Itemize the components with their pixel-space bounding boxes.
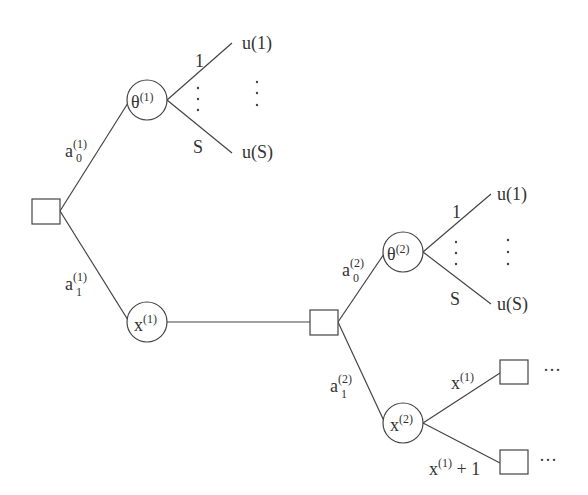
edge-label-x2-top: x(1) <box>451 370 474 393</box>
edge-label-theta2-bottom: S <box>450 289 460 309</box>
edge-label-a1-1-sub: 1 <box>76 285 82 299</box>
theta1-outcome-ellipsis <box>256 81 258 106</box>
outcome-theta2-uS: u(S) <box>497 294 528 315</box>
theta1-branch-ellipsis <box>197 87 199 111</box>
edge-a1-1 <box>60 211 128 320</box>
leaf-decision-node-a <box>500 360 528 384</box>
root-decision-node <box>32 199 60 224</box>
edge-label-x2-bottom: x(1) + 1 <box>429 456 480 479</box>
outcome-theta2-u1: u(1) <box>497 184 527 205</box>
edge-label-theta1-bottom: S <box>193 137 203 157</box>
leaf-a-continuation: ··· <box>543 360 561 380</box>
theta2-branch-ellipsis <box>455 241 457 265</box>
leaf-b-continuation: ··· <box>539 450 557 470</box>
edge-label-a0-1-sub: 0 <box>76 151 82 165</box>
leaf-decision-node-b <box>500 450 528 474</box>
edge-label-a1-2-sub: 1 <box>341 387 347 401</box>
edge-x2-bottom <box>423 423 500 463</box>
outcome-theta1-u1: u(1) <box>242 33 272 54</box>
edge-label-a0-2-sub: 0 <box>353 271 359 285</box>
decision2-node <box>310 310 338 335</box>
theta2-outcome-ellipsis <box>507 239 509 265</box>
edge-label-theta1-top: 1 <box>195 51 204 71</box>
outcome-theta1-uS: u(S) <box>242 142 273 163</box>
decision-tree-diagram: θ(1) x(1) θ(2) x(2) a(1) 0 a(1) 1 a(2) 0… <box>0 0 588 495</box>
edge-label-theta2-top: 1 <box>452 202 461 222</box>
